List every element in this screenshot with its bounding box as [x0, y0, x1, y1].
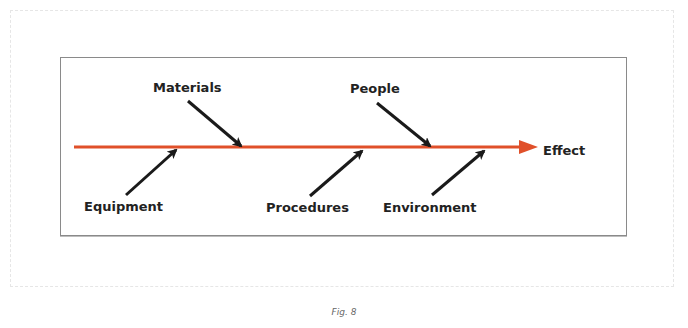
procedures-label: Procedures [266, 201, 349, 214]
materials-arrow [188, 101, 241, 146]
spine-arrow [74, 140, 538, 154]
equipment-label: Equipment [84, 200, 163, 213]
spine-arrowhead-icon [519, 140, 538, 154]
effect-label: Effect [543, 144, 585, 157]
environment-arrow [432, 151, 484, 195]
equipment-arrow [126, 150, 176, 195]
people-label: People [350, 82, 400, 95]
people-arrow [377, 103, 430, 146]
materials-label: Materials [153, 81, 222, 94]
fishbone-diagram [0, 0, 688, 328]
environment-label: Environment [383, 201, 477, 214]
procedures-arrow [310, 151, 362, 196]
figure-caption: Fig. 8 [0, 307, 688, 317]
